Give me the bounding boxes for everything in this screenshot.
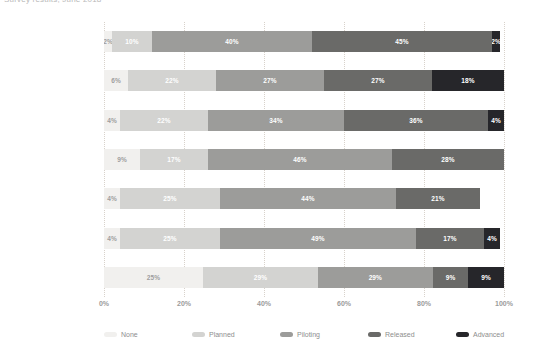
bar-segment-released[interactable]: 27%: [324, 70, 432, 91]
bar-rows: TMT2%10%40%45%2%Services6%22%27%27%18%Fi…: [104, 22, 504, 297]
segment-value-label: 29%: [254, 274, 267, 281]
legend-swatch-advanced: [456, 332, 469, 337]
legend-swatch-released: [368, 332, 381, 337]
stacked-bar-chart: Survey results, June 2018 TMT2%10%40%45%…: [0, 0, 537, 359]
bar-segment-planned[interactable]: 10%: [112, 31, 152, 52]
bar-segment-planned[interactable]: 22%: [120, 110, 208, 131]
segment-value-label: 6%: [111, 77, 121, 84]
bar-segment-piloting[interactable]: 27%: [216, 70, 324, 91]
x-axis-tick: 60%: [337, 300, 351, 307]
legend-item-none[interactable]: None: [104, 331, 138, 338]
bar-segment-piloting[interactable]: 40%: [152, 31, 312, 52]
segment-value-label: 45%: [395, 38, 408, 45]
bar-segment-released[interactable]: 21%: [396, 188, 480, 209]
legend-label: Planned: [209, 331, 235, 338]
bar-segment-advanced[interactable]: 4%: [488, 110, 504, 131]
bar-row: CPR25%29%29%9%9%: [104, 267, 504, 288]
bar-segment-piloting[interactable]: 44%: [220, 188, 396, 209]
segment-value-label: 29%: [369, 274, 382, 281]
legend-swatch-planned: [192, 332, 205, 337]
segment-value-label: 4%: [107, 195, 117, 202]
legend-item-planned[interactable]: Planned: [192, 331, 235, 338]
segment-value-label: 4%: [107, 117, 117, 124]
segment-value-label: 9%: [481, 274, 491, 281]
legend-item-piloting[interactable]: Piloting: [280, 331, 320, 338]
segment-value-label: 25%: [163, 235, 176, 242]
bar-row: Life Science4%25%49%17%4%: [104, 228, 504, 249]
bar-segment-none[interactable]: 2%: [104, 31, 112, 52]
segment-value-label: 17%: [443, 235, 456, 242]
segment-value-label: 4%: [491, 117, 501, 124]
stacked-bar: 25%29%29%9%9%: [104, 267, 504, 288]
segment-value-label: 2%: [492, 38, 500, 45]
bar-segment-advanced[interactable]: 4%: [484, 228, 500, 249]
segment-value-label: 40%: [225, 38, 238, 45]
bar-segment-none[interactable]: 4%: [104, 188, 120, 209]
segment-value-label: 36%: [409, 117, 422, 124]
bar-segment-advanced[interactable]: 2%: [492, 31, 500, 52]
bar-segment-none[interactable]: 4%: [104, 110, 120, 131]
stacked-bar: 2%10%40%45%2%: [104, 31, 504, 52]
bar-segment-planned[interactable]: 17%: [140, 149, 208, 170]
bar-segment-released[interactable]: 9%: [433, 267, 469, 288]
stacked-bar: 4%22%34%36%4%: [104, 110, 504, 131]
bar-segment-planned[interactable]: 22%: [128, 70, 216, 91]
bar-segment-none[interactable]: 25%: [104, 267, 203, 288]
bar-segment-piloting[interactable]: 49%: [220, 228, 416, 249]
x-axis-tick: 100%: [495, 300, 513, 307]
segment-value-label: 9%: [446, 274, 456, 281]
segment-value-label: 22%: [157, 117, 170, 124]
bar-segment-piloting[interactable]: 34%: [208, 110, 344, 131]
gridline: [504, 22, 506, 297]
bar-segment-piloting[interactable]: 29%: [318, 267, 433, 288]
bar-segment-piloting[interactable]: 46%: [208, 149, 392, 170]
stacked-bar: 4%25%49%17%4%: [104, 228, 504, 249]
stacked-bar: 6%22%27%27%18%: [104, 70, 504, 91]
segment-value-label: 17%: [167, 156, 180, 163]
bar-segment-released[interactable]: 45%: [312, 31, 492, 52]
segment-value-label: 25%: [163, 195, 176, 202]
segment-value-label: 4%: [487, 235, 497, 242]
bar-segment-none[interactable]: 9%: [104, 149, 140, 170]
bar-segment-none[interactable]: 4%: [104, 228, 120, 249]
x-axis-tick: 80%: [417, 300, 431, 307]
segment-value-label: 18%: [461, 77, 474, 84]
clipped-header: Survey results, June 2018: [0, 0, 537, 9]
segment-value-label: 4%: [107, 235, 117, 242]
stacked-bar: 4%25%44%21%: [104, 188, 504, 209]
bar-segment-planned[interactable]: 25%: [120, 228, 220, 249]
chart-legend: NonePlannedPilotingReleasedAdvanced: [104, 331, 504, 345]
x-axis-tick: 20%: [177, 300, 191, 307]
bar-segment-planned[interactable]: 25%: [120, 188, 220, 209]
bar-segment-advanced[interactable]: 9%: [468, 267, 504, 288]
bar-row: Infrastructure9%17%46%28%: [104, 149, 504, 170]
bar-row: TMT2%10%40%45%2%: [104, 31, 504, 52]
stacked-bar: 9%17%46%28%: [104, 149, 504, 170]
segment-value-label: 49%: [311, 235, 324, 242]
segment-value-label: 34%: [269, 117, 282, 124]
x-axis: 0%20%40%60%80%100%: [104, 300, 504, 314]
segment-value-label: 25%: [147, 274, 160, 281]
segment-value-label: 46%: [293, 156, 306, 163]
segment-value-label: 22%: [165, 77, 178, 84]
legend-label: Piloting: [297, 331, 320, 338]
segment-value-label: 10%: [125, 38, 138, 45]
segment-value-label: 28%: [441, 156, 454, 163]
segment-value-label: 44%: [301, 195, 314, 202]
bar-segment-planned[interactable]: 29%: [203, 267, 318, 288]
header-text: Survey results, June 2018: [4, 0, 102, 4]
bar-segment-released[interactable]: 17%: [416, 228, 484, 249]
segment-value-label: 27%: [371, 77, 384, 84]
bar-segment-advanced[interactable]: 18%: [432, 70, 504, 91]
bar-segment-released[interactable]: 36%: [344, 110, 488, 131]
bar-segment-released[interactable]: 28%: [392, 149, 504, 170]
legend-item-advanced[interactable]: Advanced: [456, 331, 504, 338]
bar-row: Industrial Products4%25%44%21%: [104, 188, 504, 209]
legend-label: Advanced: [473, 331, 504, 338]
legend-swatch-piloting: [280, 332, 293, 337]
bar-row: Services6%22%27%27%18%: [104, 70, 504, 91]
legend-item-released[interactable]: Released: [368, 331, 415, 338]
bar-segment-none[interactable]: 6%: [104, 70, 128, 91]
bar-row: Finance4%22%34%36%4%: [104, 110, 504, 131]
legend-label: Released: [385, 331, 415, 338]
